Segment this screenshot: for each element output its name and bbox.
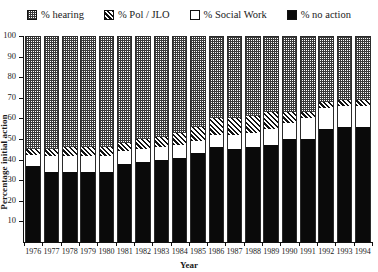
bar-segment bbox=[118, 151, 132, 163]
stacked-bar bbox=[99, 36, 115, 242]
bar-segment bbox=[118, 164, 132, 242]
y-axis-tick-label: 70 bbox=[8, 92, 17, 103]
stacked-bar bbox=[337, 36, 353, 242]
x-axis-tick-label: 1980 bbox=[97, 246, 115, 260]
x-axis-tick-label: 1994 bbox=[354, 246, 372, 260]
bar-cell bbox=[152, 36, 170, 242]
bar-group bbox=[24, 36, 372, 242]
bar-cell bbox=[171, 36, 189, 242]
bar-segment bbox=[301, 36, 315, 112]
x-axis-title: Year bbox=[0, 260, 378, 270]
bar-segment bbox=[246, 116, 260, 132]
bar-cell bbox=[189, 36, 207, 242]
stacked-bar bbox=[154, 36, 170, 242]
bar-cell bbox=[244, 36, 262, 242]
bar-cell bbox=[134, 36, 152, 242]
bar-segment bbox=[228, 118, 242, 134]
y-axis-tick-label: 100 bbox=[3, 30, 16, 41]
bar-segment bbox=[100, 172, 114, 242]
stacked-bar bbox=[282, 36, 298, 242]
stacked-bar bbox=[227, 36, 243, 242]
bar-segment bbox=[81, 172, 95, 242]
bar-cell bbox=[299, 36, 317, 242]
stacked-bar bbox=[355, 36, 371, 242]
bar-segment bbox=[191, 141, 205, 153]
legend-item-label: % Pol / JLO bbox=[118, 10, 170, 20]
bar-segment bbox=[63, 172, 77, 242]
diagonal-hatch-swatch-icon bbox=[104, 10, 114, 20]
bar-segment bbox=[283, 36, 297, 112]
bar-segment bbox=[81, 36, 95, 147]
bar-cell bbox=[61, 36, 79, 242]
legend-item: % Pol / JLO bbox=[104, 10, 170, 20]
bar-segment bbox=[264, 129, 278, 145]
y-axis-tick-label: 50 bbox=[8, 133, 17, 144]
bar-segment bbox=[173, 145, 187, 157]
y-axis-tick-label: 80 bbox=[8, 71, 17, 82]
x-axis-tick-label: 1984 bbox=[171, 246, 189, 260]
bar-cell bbox=[354, 36, 372, 242]
bar-segment bbox=[210, 135, 224, 147]
bar-segment bbox=[283, 139, 297, 242]
stacked-bar bbox=[300, 36, 316, 242]
bar-segment bbox=[136, 139, 150, 149]
bar-segment bbox=[301, 139, 315, 242]
bar-cell bbox=[335, 36, 353, 242]
bar-cell bbox=[317, 36, 335, 242]
legend-item: % Social Work bbox=[190, 10, 267, 20]
bar-segment bbox=[136, 162, 150, 242]
x-axis-tick-label: 1981 bbox=[116, 246, 134, 260]
bar-segment bbox=[210, 147, 224, 242]
x-axis-tick-label: 1988 bbox=[244, 246, 262, 260]
x-axis-tick bbox=[372, 242, 373, 246]
bar-segment bbox=[81, 156, 95, 172]
bar-segment bbox=[246, 133, 260, 147]
bar-segment bbox=[26, 166, 40, 242]
y-axis-tick-label: 20 bbox=[8, 195, 17, 206]
stacked-bar bbox=[245, 36, 261, 242]
x-axis-tick-label: 1990 bbox=[280, 246, 298, 260]
bar-segment bbox=[26, 155, 40, 165]
legend-item-label: % no action bbox=[301, 10, 351, 20]
bar-segment bbox=[173, 133, 187, 145]
bar-segment bbox=[118, 36, 132, 143]
bar-segment bbox=[63, 156, 77, 172]
bar-segment bbox=[155, 137, 169, 147]
x-axis-tick-label: 1978 bbox=[61, 246, 79, 260]
bar-segment bbox=[63, 147, 77, 155]
stacked-bar bbox=[117, 36, 133, 242]
x-axis-tick-label: 1986 bbox=[207, 246, 225, 260]
bar-segment bbox=[264, 112, 278, 128]
bar-segment bbox=[246, 147, 260, 242]
stacked-bar bbox=[25, 36, 41, 242]
legend-item-label: % Social Work bbox=[204, 10, 267, 20]
x-axis-labels: 1976197719781979198019811982198319841985… bbox=[24, 246, 372, 260]
bar-segment bbox=[100, 36, 114, 147]
bar-segment bbox=[283, 112, 297, 122]
bar-segment bbox=[118, 143, 132, 151]
bar-segment bbox=[155, 147, 169, 159]
stacked-bar bbox=[172, 36, 188, 242]
bar-cell bbox=[42, 36, 60, 242]
bar-cell bbox=[225, 36, 243, 242]
stacked-bar-chart: % hearing% Pol / JLO% Social Work% no ac… bbox=[0, 0, 378, 272]
stacked-bar bbox=[190, 36, 206, 242]
bar-segment bbox=[136, 149, 150, 161]
axis-area: 102030405060708090100 bbox=[24, 36, 372, 242]
bar-segment bbox=[283, 123, 297, 139]
open-white-swatch-icon bbox=[190, 10, 200, 20]
x-axis-tick-label: 1989 bbox=[262, 246, 280, 260]
bar-cell bbox=[79, 36, 97, 242]
solid-black-swatch-icon bbox=[287, 10, 297, 20]
stacked-bar bbox=[318, 36, 334, 242]
bar-segment bbox=[81, 147, 95, 155]
plot-area: Percentage initial action 10203040506070… bbox=[0, 30, 378, 272]
bar-segment bbox=[228, 149, 242, 242]
x-axis-tick-label: 1992 bbox=[317, 246, 335, 260]
x-axis-tick-label: 1993 bbox=[335, 246, 353, 260]
stacked-bar bbox=[263, 36, 279, 242]
x-axis-tick-label: 1987 bbox=[225, 246, 243, 260]
bar-cell bbox=[97, 36, 115, 242]
stacked-bar bbox=[80, 36, 96, 242]
bar-segment bbox=[63, 36, 77, 147]
